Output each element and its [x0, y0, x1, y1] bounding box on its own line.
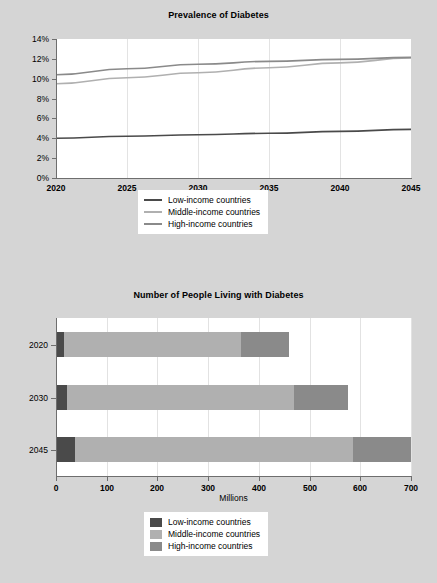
line-y-tick-label: 4%: [8, 133, 49, 143]
line-y-tick: [52, 178, 56, 179]
bar-x-tick: [157, 477, 158, 481]
line-y-tick: [52, 158, 56, 159]
line-y-tick-label: 14%: [8, 34, 49, 44]
line-x-tick-label: 2040: [324, 183, 356, 193]
line-x-tick-label: 2045: [395, 183, 427, 193]
bar-x-tick: [107, 477, 108, 481]
line-y-tick-label: 0%: [8, 173, 49, 183]
bar-category-label: 2020: [8, 340, 48, 350]
legend-item-label: High-income countries: [168, 218, 253, 230]
bar-segment: [294, 385, 347, 410]
legend-item-label: Middle-income countries: [168, 528, 260, 540]
bar-x-tick: [259, 477, 260, 481]
bar-plot-area: [56, 318, 411, 476]
bar-x-axis: [56, 476, 412, 477]
line-chart-svg: [56, 39, 411, 178]
bar-x-tick: [208, 477, 209, 481]
legend-line-swatch: [144, 223, 162, 225]
legend-item-label: Low-income countries: [168, 516, 251, 528]
legend-item-label: Middle-income countries: [168, 206, 260, 218]
line-x-tick-label: 2020: [40, 183, 72, 193]
line-y-tick-label: 6%: [8, 113, 49, 123]
legend-color-swatch: [150, 542, 162, 551]
legend-item: High-income countries: [144, 218, 260, 230]
line-y-tick-label: 8%: [8, 94, 49, 104]
people-bar-chart: Number of People Living with Diabetes 20…: [8, 290, 429, 575]
bar-category-label: 2045: [8, 445, 48, 455]
bar-y-axis: [56, 318, 57, 477]
line-y-tick: [52, 138, 56, 139]
bar-segment: [67, 385, 294, 410]
line-chart-legend: Low-income countriesMiddle-income countr…: [138, 190, 268, 234]
legend-item-label: High-income countries: [168, 540, 253, 552]
bar-x-tick-label: 600: [344, 483, 376, 493]
bar-row: [56, 332, 411, 357]
bar-chart-gridline: [411, 318, 412, 476]
line-plot-area: [56, 39, 411, 178]
line-y-tick: [52, 39, 56, 40]
bar-segment: [56, 385, 67, 410]
bar-row: [56, 437, 411, 462]
bar-x-tick-label: 100: [91, 483, 123, 493]
line-series-low: [56, 129, 411, 138]
line-y-tick-label: 12%: [8, 54, 49, 64]
legend-item: Middle-income countries: [144, 206, 260, 218]
bar-x-tick-label: 400: [243, 483, 275, 493]
bar-x-tick-label: 500: [294, 483, 326, 493]
bar-segment: [241, 332, 289, 357]
bar-chart-title: Number of People Living with Diabetes: [8, 290, 429, 300]
chart-page: Prevalence of Diabetes 0%2%4%6%8%10%12%1…: [0, 0, 437, 583]
line-y-tick: [52, 118, 56, 119]
line-x-axis: [56, 178, 412, 179]
legend-color-swatch: [150, 530, 162, 539]
line-series-middle: [56, 58, 411, 84]
bar-segment: [353, 437, 411, 462]
bar-row: [56, 385, 411, 410]
line-y-tick: [52, 59, 56, 60]
bar-segment: [75, 437, 353, 462]
legend-item-label: Low-income countries: [168, 194, 251, 206]
bar-x-tick-label: 300: [192, 483, 224, 493]
legend-color-swatch: [150, 518, 162, 527]
line-y-tick-label: 10%: [8, 74, 49, 84]
legend-line-swatch: [144, 211, 162, 213]
chart-frame: Prevalence of Diabetes 0%2%4%6%8%10%12%1…: [8, 8, 429, 575]
bar-x-tick: [411, 477, 412, 481]
legend-item: High-income countries: [150, 540, 260, 552]
bar-chart-legend: Low-income countriesMiddle-income countr…: [144, 512, 268, 556]
line-y-tick: [52, 99, 56, 100]
bar-segment: [56, 332, 64, 357]
bar-x-tick-label: 200: [141, 483, 173, 493]
bar-x-tick: [360, 477, 361, 481]
bar-segment: [56, 437, 75, 462]
bar-x-tick: [56, 477, 57, 481]
bar-category-label: 2030: [8, 393, 48, 403]
line-y-tick-label: 2%: [8, 153, 49, 163]
bar-x-tick-label: 700: [395, 483, 427, 493]
line-y-axis: [56, 39, 57, 179]
legend-item: Middle-income countries: [150, 528, 260, 540]
legend-item: Low-income countries: [150, 516, 260, 528]
bar-x-axis-title: Millions: [56, 493, 411, 503]
bar-segment: [64, 332, 242, 357]
line-chart-title: Prevalence of Diabetes: [8, 10, 429, 20]
line-y-tick: [52, 79, 56, 80]
bar-x-tick-label: 0: [40, 483, 72, 493]
legend-item: Low-income countries: [144, 194, 260, 206]
prevalence-line-chart: Prevalence of Diabetes 0%2%4%6%8%10%12%1…: [8, 8, 429, 223]
legend-line-swatch: [144, 199, 162, 201]
line-series-high: [56, 57, 411, 74]
bar-x-tick: [310, 477, 311, 481]
